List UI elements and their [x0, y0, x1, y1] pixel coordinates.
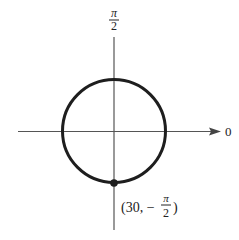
marked-point: [110, 179, 118, 187]
vertical-axis-label-den: 2: [111, 19, 117, 33]
polar-graph: π 2 0 (30, − π 2 ): [0, 0, 239, 240]
point-label-frac-num: π: [163, 192, 169, 204]
point-label-close: ): [173, 200, 178, 216]
point-label-open: (30, −: [121, 200, 155, 216]
polar-axis-label: 0: [225, 124, 232, 139]
vertical-axis-label-num: π: [111, 6, 118, 20]
point-label-frac-den: 2: [163, 206, 169, 220]
